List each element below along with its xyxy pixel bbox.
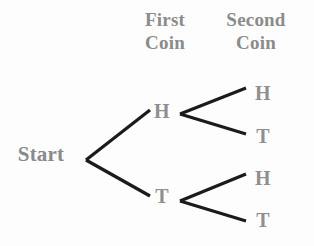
node-first-coin-heads: H xyxy=(150,101,174,121)
node-start: Start xyxy=(2,144,80,165)
column-header-first-coin: First Coin xyxy=(126,8,204,54)
node-second-coin-tails-after-tails: T xyxy=(251,210,275,230)
tree-diagram-canvas: First Coin Second Coin Start H T H T H T xyxy=(0,0,314,246)
node-first-coin-tails: T xyxy=(150,186,174,206)
node-second-coin-heads-after-tails: H xyxy=(251,168,275,188)
edge-h-to-t xyxy=(180,114,246,134)
node-second-coin-tails-after-heads: T xyxy=(251,126,275,146)
edge-start-to-h xyxy=(86,110,150,160)
edge-t-to-h xyxy=(180,174,246,201)
column-header-second-coin: Second Coin xyxy=(208,8,304,54)
node-second-coin-heads-after-heads: H xyxy=(251,83,275,103)
edge-h-to-h xyxy=(180,88,246,114)
edge-start-to-t xyxy=(86,160,150,196)
edge-t-to-t xyxy=(180,201,246,221)
